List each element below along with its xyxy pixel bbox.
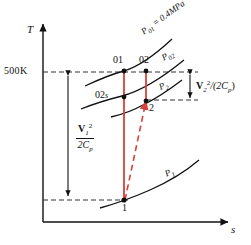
y-axis-label: T bbox=[27, 24, 33, 35]
state-points bbox=[121, 69, 148, 203]
state-02s-sub: s bbox=[105, 91, 108, 100]
state-01-text: 01 bbox=[113, 54, 123, 65]
temperature-tick-label: 500K bbox=[4, 66, 27, 76]
state-label-02: 02 bbox=[139, 55, 149, 65]
point-02s bbox=[122, 95, 127, 100]
state-label-1: 1 bbox=[122, 203, 127, 213]
right-divider-text: /(2C bbox=[210, 80, 228, 91]
process-lines bbox=[124, 70, 146, 200]
left-denom-sub: p bbox=[89, 145, 93, 153]
point-2 bbox=[144, 99, 149, 104]
state-label-02s: 02s bbox=[95, 90, 108, 100]
axes bbox=[43, 24, 228, 222]
right-close-paren: ) bbox=[232, 80, 235, 91]
left-v-sup: 2 bbox=[89, 122, 93, 130]
process-1-to-2-arrow bbox=[125, 101, 146, 200]
isobar-p1-curve bbox=[100, 160, 199, 208]
state-02-text: 02 bbox=[139, 54, 149, 65]
left-fraction-denominator: 2Cp bbox=[76, 139, 94, 153]
state-1-text: 1 bbox=[122, 202, 127, 213]
left-v-sub: 1 bbox=[85, 129, 89, 137]
guide-lines bbox=[43, 72, 198, 200]
left-fraction-numerator: V12 bbox=[76, 123, 94, 139]
left-denom-text: 2C bbox=[78, 139, 90, 150]
ts-diagram-figure: T s 500K P01 = 0.4MPa P02 P2 P1 01 02 02… bbox=[0, 0, 251, 245]
bracket-label-right: V22/(2Cp) bbox=[196, 80, 235, 94]
state-label-01: 01 bbox=[113, 55, 123, 65]
state-02s-text: 02 bbox=[95, 89, 105, 100]
point-01 bbox=[122, 69, 127, 74]
x-axis-label: s bbox=[231, 224, 235, 235]
state-label-2: 2 bbox=[149, 103, 154, 113]
state-2-text: 2 bbox=[149, 102, 154, 113]
left-fraction: V12 2Cp bbox=[76, 123, 94, 153]
bracket-label-left: V12 2Cp bbox=[76, 123, 94, 153]
point-02 bbox=[144, 69, 149, 74]
right-v-sub: 2 bbox=[203, 86, 207, 94]
